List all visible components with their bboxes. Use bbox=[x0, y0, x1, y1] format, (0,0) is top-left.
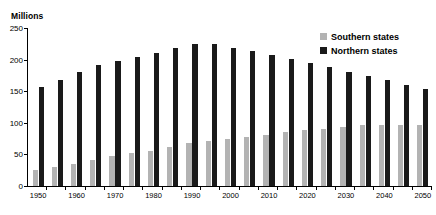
y-tick-mark bbox=[24, 186, 27, 187]
x-tick-mark bbox=[431, 187, 432, 190]
x-tick-mark bbox=[393, 187, 394, 190]
y-tick-label: 200 bbox=[10, 55, 23, 64]
legend-swatch-icon-northern bbox=[320, 47, 327, 54]
x-tick-mark bbox=[335, 187, 336, 190]
bar-group bbox=[302, 28, 313, 186]
y-tick-label: 50 bbox=[14, 150, 23, 159]
bar-southern-1970 bbox=[109, 156, 114, 186]
bar-group bbox=[206, 28, 217, 186]
x-tick-label: 2000 bbox=[222, 191, 239, 200]
x-tick-mark bbox=[277, 187, 278, 190]
x-tick-mark bbox=[316, 187, 317, 190]
bar-northern-2030 bbox=[346, 72, 351, 186]
legend-label-northern: Northern states bbox=[331, 46, 398, 56]
bar-southern-2045 bbox=[398, 125, 403, 186]
x-tick-mark bbox=[123, 187, 124, 190]
bar-group bbox=[225, 28, 236, 186]
x-tick-mark bbox=[354, 187, 355, 190]
x-tick-mark bbox=[162, 187, 163, 190]
bar-group bbox=[109, 28, 120, 186]
bar-northern-1990 bbox=[192, 44, 197, 186]
x-tick-label: 1960 bbox=[68, 191, 85, 200]
x-tick-label: 2050 bbox=[415, 191, 432, 200]
x-tick-mark bbox=[142, 187, 143, 190]
bar-group bbox=[129, 28, 140, 186]
bar-chart: Millions 050100150200250 195019601970198… bbox=[0, 0, 436, 215]
bar-southern-1955 bbox=[52, 167, 57, 186]
bar-northern-1980 bbox=[154, 53, 159, 186]
x-tick-mark bbox=[181, 187, 182, 190]
bar-northern-2020 bbox=[308, 63, 313, 186]
legend-swatch-icon-southern bbox=[320, 33, 327, 40]
bar-southern-2030 bbox=[340, 127, 345, 186]
x-tick-mark bbox=[373, 187, 374, 190]
bar-southern-1965 bbox=[90, 160, 95, 186]
x-tick-label: 1990 bbox=[184, 191, 201, 200]
bar-southern-2005 bbox=[244, 137, 249, 186]
legend-label-southern: Southern states bbox=[331, 32, 399, 42]
bar-southern-2015 bbox=[283, 132, 288, 186]
bar-southern-2025 bbox=[321, 129, 326, 187]
bar-group bbox=[417, 28, 428, 186]
y-tick-label: 0 bbox=[19, 182, 23, 191]
bar-group bbox=[52, 28, 63, 186]
x-tick-mark bbox=[85, 187, 86, 190]
bar-northern-1950 bbox=[39, 87, 44, 186]
legend-item-southern: Southern states bbox=[320, 30, 399, 43]
bar-southern-2010 bbox=[263, 135, 268, 186]
bar-southern-2020 bbox=[302, 130, 307, 186]
bar-group bbox=[167, 28, 178, 186]
bar-group bbox=[90, 28, 101, 186]
x-tick-label: 2030 bbox=[338, 191, 355, 200]
bar-southern-1980 bbox=[148, 151, 153, 186]
bar-northern-2015 bbox=[289, 59, 294, 186]
x-tick-label: 2040 bbox=[376, 191, 393, 200]
y-tick-label: 250 bbox=[10, 24, 23, 33]
y-tick-label: 150 bbox=[10, 87, 23, 96]
x-tick-label: 2010 bbox=[261, 191, 278, 200]
bar-northern-2025 bbox=[327, 67, 332, 186]
bar-southern-1995 bbox=[206, 141, 211, 187]
bar-southern-2035 bbox=[360, 125, 365, 186]
bar-southern-1990 bbox=[186, 143, 191, 186]
bar-northern-2050 bbox=[423, 89, 428, 186]
y-axis-unit-label: Millions bbox=[11, 11, 43, 21]
bar-northern-2000 bbox=[231, 48, 236, 186]
chart-legend: Southern states Northern states bbox=[320, 30, 399, 58]
x-axis-line bbox=[27, 186, 432, 187]
bar-group bbox=[186, 28, 197, 186]
x-tick-mark bbox=[239, 187, 240, 190]
bar-northern-2045 bbox=[404, 85, 409, 186]
bar-northern-2040 bbox=[385, 80, 390, 186]
bar-northern-1955 bbox=[58, 80, 63, 186]
bar-northern-1995 bbox=[212, 44, 217, 186]
legend-item-northern: Northern states bbox=[320, 44, 399, 57]
bar-group bbox=[71, 28, 82, 186]
bar-southern-1985 bbox=[167, 147, 172, 186]
x-tick-mark bbox=[65, 187, 66, 190]
bar-group bbox=[283, 28, 294, 186]
bar-northern-2035 bbox=[366, 76, 371, 186]
bar-northern-2005 bbox=[250, 51, 255, 186]
bar-group bbox=[33, 28, 44, 186]
bar-group bbox=[263, 28, 274, 186]
bar-northern-1965 bbox=[96, 65, 101, 186]
bar-group bbox=[148, 28, 159, 186]
x-tick-label: 1970 bbox=[107, 191, 124, 200]
bar-southern-1960 bbox=[71, 164, 76, 186]
x-tick-mark bbox=[219, 187, 220, 190]
x-tick-label: 1950 bbox=[30, 191, 47, 200]
x-tick-mark bbox=[200, 187, 201, 190]
x-tick-mark bbox=[258, 187, 259, 190]
y-tick-label: 100 bbox=[10, 118, 23, 127]
x-tick-label: 1980 bbox=[145, 191, 162, 200]
x-tick-mark bbox=[412, 187, 413, 190]
bar-northern-1985 bbox=[173, 48, 178, 186]
bar-group bbox=[398, 28, 409, 186]
bar-northern-1970 bbox=[115, 61, 120, 186]
bar-southern-1950 bbox=[33, 170, 38, 186]
x-tick-mark bbox=[46, 187, 47, 190]
bar-group bbox=[244, 28, 255, 186]
bar-southern-2050 bbox=[417, 125, 422, 186]
bar-northern-1975 bbox=[135, 57, 140, 186]
